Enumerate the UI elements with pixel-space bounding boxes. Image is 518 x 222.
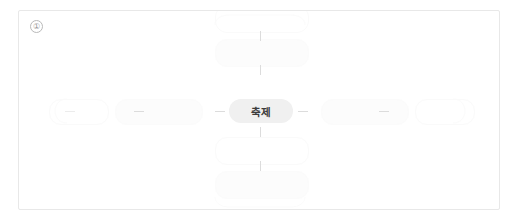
connector-left-outer bbox=[65, 111, 75, 112]
ghost-node-right-far[interactable] bbox=[415, 99, 475, 125]
connector-right-inner bbox=[298, 111, 308, 112]
diagram-card: ① 축제 bbox=[18, 10, 500, 210]
connector-bottom-inner bbox=[260, 127, 261, 137]
mindmap-canvas[interactable]: 축제 bbox=[19, 11, 499, 209]
connector-bottom-outer bbox=[260, 161, 261, 171]
ghost-node-bottom-far[interactable] bbox=[215, 171, 309, 199]
connector-left-mid bbox=[134, 111, 144, 112]
ghost-node-top-far[interactable] bbox=[215, 10, 309, 33]
ghost-node-left[interactable] bbox=[115, 99, 203, 125]
center-node[interactable]: 축제 bbox=[229, 99, 293, 123]
connector-left-inner bbox=[215, 111, 225, 112]
connector-top-inner bbox=[260, 65, 261, 75]
ghost-node-bottom[interactable] bbox=[215, 137, 309, 165]
connector-right-outer bbox=[379, 111, 389, 112]
center-node-label: 축제 bbox=[251, 104, 272, 119]
connector-top-outer bbox=[260, 31, 261, 41]
ghost-node-right[interactable] bbox=[321, 99, 409, 125]
ghost-node-left-far[interactable] bbox=[49, 99, 109, 125]
ghost-node-top[interactable] bbox=[215, 39, 309, 67]
